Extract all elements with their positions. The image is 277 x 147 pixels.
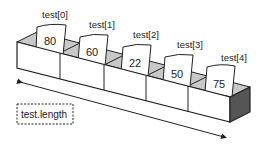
element-value-1: 60 — [86, 46, 98, 58]
diagram-canvas: test[0] test[1] test[2] test[3] test[4] … — [0, 0, 277, 147]
index-label-0: test[0] — [42, 9, 68, 20]
index-label-4: test[4] — [221, 52, 247, 63]
element-value-2: 22 — [129, 57, 141, 69]
element-value-0: 80 — [44, 35, 56, 47]
index-label-2: test[2] — [133, 29, 159, 40]
index-label-1: test[1] — [89, 19, 115, 30]
length-label: test.length — [21, 109, 67, 120]
array-diagram: test[0] test[1] test[2] test[3] test[4] … — [0, 0, 277, 147]
index-label-3: test[3] — [177, 39, 203, 50]
element-value-4: 75 — [213, 78, 225, 90]
length-label-box: test.length — [17, 104, 73, 124]
element-value-3: 50 — [171, 68, 183, 80]
